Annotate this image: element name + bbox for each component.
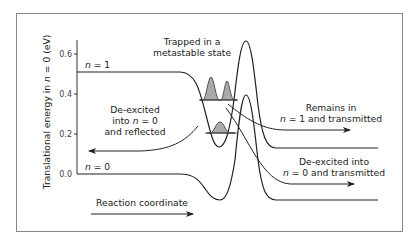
trapped-wavepacket-n0 (207, 122, 235, 133)
trapped-label-line2: metastable state (153, 47, 231, 58)
trapped-label-line1: Trapped in a (163, 36, 221, 47)
deexcited-transmitted-label-line1: De-excited into (299, 156, 369, 167)
diagram: 0.0 0.2 0.4 0.6 Translational energy in … (0, 0, 416, 242)
wavepackets (199, 77, 238, 133)
reflected-label-line3: and reflected (104, 126, 165, 137)
y-axis-label: Translational energy in n = 0 (eV) (41, 35, 52, 191)
n1-level-label: n = 1 (85, 59, 110, 70)
deexcited-transmitted-label-line2: n = 0 and transmitted (283, 167, 385, 178)
x-axis-label: Reaction coordinate (96, 197, 188, 208)
y-ticks: 0.0 0.2 0.4 0.6 (59, 50, 77, 179)
y-tick-label: 0.4 (59, 90, 72, 99)
trapped-wavepacket-n1 (200, 77, 237, 100)
y-tick-label: 0.0 (59, 170, 72, 179)
remains-label-line1: Remains in (306, 102, 357, 113)
y-tick-label: 0.2 (59, 130, 72, 139)
reflected-label-line1: De-excited (110, 104, 160, 115)
y-tick-label: 0.6 (59, 50, 72, 59)
reflected-label-line2: into n = 0 (112, 115, 158, 126)
n0-level-label: n = 0 (85, 161, 110, 172)
remains-label-line2: n = 1 and transmitted (280, 113, 382, 124)
